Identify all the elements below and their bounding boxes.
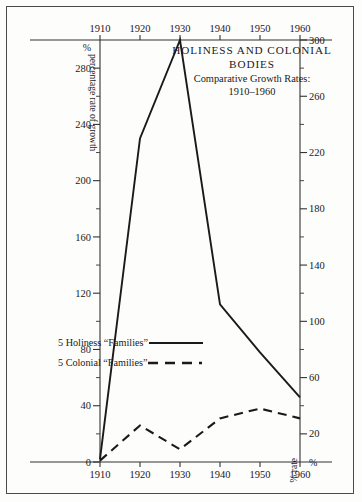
x-tick-label-top: 1950 bbox=[250, 23, 271, 34]
chart-legend: 5 Holiness “Families” 5 Colonial “Famili… bbox=[58, 332, 258, 372]
series-line-colonial bbox=[100, 409, 300, 461]
y-axis-right-percent-symbol: % bbox=[309, 457, 317, 468]
y-tick-label-left: 160 bbox=[75, 232, 91, 243]
x-tick-label-top: 1920 bbox=[130, 23, 151, 34]
legend-label-holiness: 5 Holiness “Families” bbox=[58, 337, 148, 348]
series-line-holiness bbox=[100, 40, 300, 459]
x-tick-label-bottom: 1930 bbox=[170, 469, 191, 480]
series-group bbox=[100, 40, 300, 461]
y-tick-label-left: 200 bbox=[75, 175, 91, 186]
x-tick-label-top: 1940 bbox=[210, 23, 231, 34]
x-tick-label-bottom: 1910 bbox=[90, 469, 111, 480]
y-tick-label-right: 100 bbox=[309, 316, 325, 327]
axes-group bbox=[30, 40, 332, 462]
chart-title-block: HOLINESS AND COLONIAL BODIES Comparative… bbox=[168, 44, 336, 99]
title-line-1: HOLINESS AND COLONIAL bbox=[168, 44, 336, 58]
y-tick-label-right: 60 bbox=[309, 372, 320, 383]
y-tick-label-right: 140 bbox=[309, 260, 325, 271]
legend-item-colonial: 5 Colonial “Families” bbox=[58, 352, 258, 372]
x-tick-label-bottom: 1920 bbox=[130, 469, 151, 480]
x-tick-label-top: 1910 bbox=[90, 23, 111, 34]
legend-label-colonial: 5 Colonial “Families” bbox=[58, 357, 147, 368]
chart-subtitle-years: 1910–1960 bbox=[168, 86, 336, 99]
y-tick-label-left: 40 bbox=[81, 400, 92, 411]
title-line-2: BODIES bbox=[168, 58, 336, 72]
x-tick-label-top: 1960 bbox=[290, 23, 311, 34]
y-axis-left-percent-symbol: % bbox=[83, 42, 91, 53]
y-tick-label-right: 20 bbox=[309, 428, 320, 439]
y-tick-label-left: 120 bbox=[75, 288, 91, 299]
y-tick-label-zero: 0 bbox=[86, 457, 91, 468]
chart-subtitle: Comparative Growth Rates: bbox=[168, 73, 336, 86]
y-tick-label-right: 220 bbox=[309, 147, 325, 158]
legend-swatch-dashed-icon bbox=[148, 357, 204, 367]
legend-swatch-solid-icon bbox=[149, 337, 205, 347]
y-tick-label-right: 180 bbox=[309, 203, 325, 214]
y-axis-left-title: percentage rate of growth bbox=[88, 54, 98, 152]
chart-figure: 1910191019201920193019301940194019501950… bbox=[0, 0, 362, 502]
x-tick-label-bottom: 1940 bbox=[210, 469, 231, 480]
x-tick-label-top: 1930 bbox=[170, 23, 191, 34]
x-tick-label-bottom: 1950 bbox=[250, 469, 271, 480]
y-axis-right-title: % rate bbox=[289, 458, 299, 483]
legend-item-holiness: 5 Holiness “Families” bbox=[58, 332, 258, 352]
